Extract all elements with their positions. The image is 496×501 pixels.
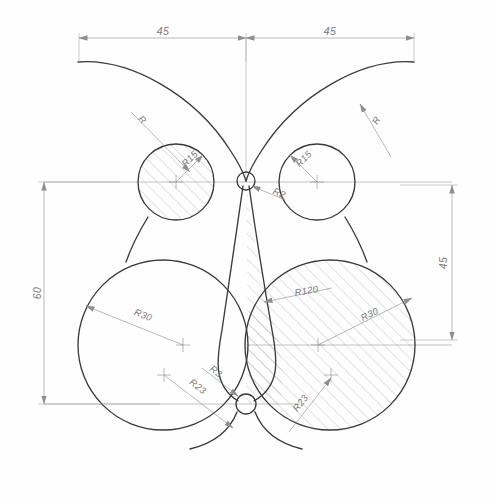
left-large-circle: [78, 260, 248, 430]
dimension-top-right: 45: [246, 25, 414, 62]
left-upper-blend: [126, 217, 148, 262]
radius-leader-right-small: R15: [290, 148, 317, 182]
radius-leader-center-fillet: R2: [252, 185, 288, 200]
cad-drawing-svg: 45 45 60 45 R R: [0, 0, 496, 501]
radius-label-left-large: R30: [133, 306, 154, 323]
radius-label-bottom-fillet: R3: [208, 363, 225, 380]
radius-label-left-bottom-arc: R23: [188, 376, 210, 396]
right-upper-blend: [345, 217, 367, 262]
dimension-right-vertical-label: 45: [437, 257, 449, 269]
hatch-region-left-small-circle: [130, 136, 225, 231]
upper-right-wing-arc: [246, 62, 414, 181]
radius-label-center-fillet: R2: [271, 185, 287, 200]
dimension-top-left-label: 45: [157, 25, 169, 37]
radius-leader-left-bottom-arc: R23: [164, 375, 233, 428]
radius-label-right-small: R15: [293, 148, 314, 169]
radius-label-upper-right: R: [369, 114, 382, 126]
dimension-top-left: 45: [79, 25, 246, 62]
technical-drawing-canvas: 45 45 60 45 R R: [0, 0, 496, 501]
dimension-top-right-label: 45: [324, 25, 336, 37]
radius-label-upper-left: R: [136, 113, 149, 126]
left-bottom-arc-r23: [190, 412, 237, 449]
radius-leader-upper-right: R: [360, 104, 391, 157]
radius-leader-left-large: R30: [86, 306, 183, 345]
dimension-left-vertical-label: 60: [31, 287, 43, 299]
